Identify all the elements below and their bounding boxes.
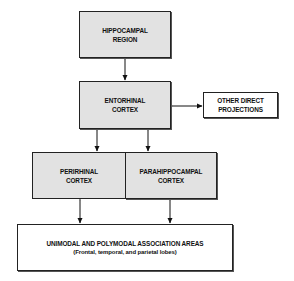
node-entorhinal-cortex: ENTORHINAL CORTEX	[79, 81, 171, 129]
node-label-line1: ENTORHINAL	[105, 96, 146, 105]
node-hippocampal-region: HIPPOCAMPAL REGION	[79, 11, 171, 58]
node-label-line2: (Frontal, temporal, and parietal lobes)	[73, 248, 176, 257]
node-label-line2: REGION	[113, 35, 138, 44]
node-label-line1: HIPPOCAMPAL	[102, 26, 148, 35]
node-label-line1: PERIRHINAL	[60, 167, 98, 176]
node-label-line2: PROJECTIONS	[218, 105, 263, 114]
node-other-direct-projections: OTHER DIRECT PROJECTIONS	[203, 92, 278, 118]
node-label-line2: CORTEX	[158, 176, 184, 185]
node-parahippocampal-cortex: PARAHIPPOCAMPAL CORTEX	[125, 152, 217, 199]
node-label-line1: OTHER DIRECT	[217, 96, 264, 105]
node-label-line1: UNIMODAL AND POLYMODAL ASSOCIATION AREAS	[47, 239, 204, 248]
node-association-areas: UNIMODAL AND POLYMODAL ASSOCIATION AREAS…	[17, 224, 233, 271]
node-label-line2: CORTEX	[66, 176, 92, 185]
node-label-line1: PARAHIPPOCAMPAL	[140, 167, 203, 176]
node-perirhinal-cortex: PERIRHINAL CORTEX	[32, 152, 126, 199]
node-label-line2: CORTEX	[112, 105, 138, 114]
